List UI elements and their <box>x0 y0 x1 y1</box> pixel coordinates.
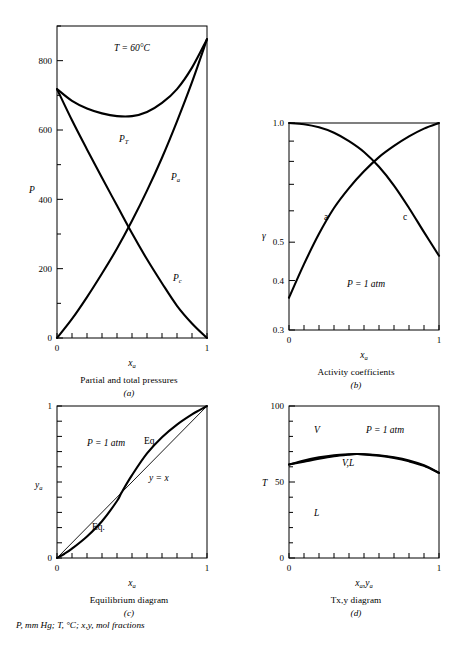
y-tick-label: 0 <box>280 553 285 563</box>
curve-label-eq-lower: Eq. <box>92 522 105 532</box>
y-tick-label: 200 <box>39 264 53 274</box>
y-tick-label: 0 <box>48 553 53 563</box>
panel-d-annotation: P = 1 atm <box>365 425 404 435</box>
panel-a-frame <box>57 26 207 338</box>
curve-activity-coefficient-c <box>289 123 439 256</box>
panel-b-y-ticks: 0.30.40.51.0 <box>273 118 295 335</box>
panel-b-curves <box>289 123 439 298</box>
panel-c-x-ticks: 01 <box>55 553 210 573</box>
y-tick-label: 600 <box>39 125 53 135</box>
region-label-vapor-liquid: V,L <box>342 458 354 468</box>
panel-b-labels: P = 1 atm a c γ xa <box>262 212 407 361</box>
panel-d-frame <box>289 406 439 558</box>
panel-a: 0200400600800 01 T = 60°C PT Pa Pc P xa … <box>16 18 242 399</box>
region-label-vapor: V <box>314 425 321 435</box>
figure-footnote: P, mm Hg; T, °C; x,y, mol fractions <box>16 620 145 630</box>
panel-c-axes: 10 01 <box>48 401 210 573</box>
y-tick-label: 0 <box>48 333 53 343</box>
panel-b-annotation: P = 1 atm <box>346 279 385 289</box>
y-tick-label: 800 <box>39 56 53 66</box>
curve-label-gamma-c: c <box>403 212 407 222</box>
panel-d-labels: P = 1 atm V V,L L T xa,ya <box>262 425 404 589</box>
panel-b-caption-text: Activity coefficients <box>317 367 394 377</box>
panel-d-x-ticks: 01 <box>287 553 442 573</box>
panel-d: 050100 01 P = 1 atm V V,L L T xa,ya Tx,y… <box>248 398 464 619</box>
panel-c-caption: Equilibrium diagram (c) <box>16 595 242 619</box>
panel-b-axes: 0.30.40.51.0 01 <box>273 118 442 345</box>
curve-partial-pressure-c <box>57 89 207 338</box>
panel-c-plot: 10 01 P = 1 atm Eq. Eq. y = x ya xa <box>16 398 242 593</box>
panel-a-annotation: T = 60°C <box>114 43 151 53</box>
curve-bubble-point <box>289 454 439 473</box>
panel-a-x-axis-title: xa <box>127 358 136 369</box>
panel-a-caption: Partial and total pressures (a) <box>16 375 242 399</box>
panel-c-x-axis-title: xa <box>127 578 136 589</box>
curve-label-pc: Pc <box>172 273 182 284</box>
panel-c-caption-text: Equilibrium diagram <box>90 595 169 605</box>
panel-c-curves <box>57 406 207 558</box>
panel-c-sublabel: (c) <box>16 608 242 620</box>
panel-b-caption: Activity coefficients (b) <box>248 367 464 391</box>
y-tick-label: 50 <box>275 477 285 487</box>
curve-activity-coefficient-a <box>289 123 439 298</box>
curve-y-equals-x <box>57 406 207 558</box>
panel-c-annotation: P = 1 atm <box>86 438 125 448</box>
panel-b-frame <box>289 123 439 330</box>
panel-d-y-axis-title: T <box>262 478 268 488</box>
curve-label-eq-upper: Eq. <box>144 436 157 446</box>
y-tick-label: 0.5 <box>273 237 285 247</box>
panel-b-x-ticks: 01 <box>287 325 442 345</box>
panel-a-y-axis-title: P <box>28 185 35 195</box>
panel-d-y-ticks: 050100 <box>271 401 296 563</box>
figure-container: 0200400600800 01 T = 60°C PT Pa Pc P xa … <box>0 0 473 652</box>
panel-c-diagonal-label: y = x <box>148 473 169 483</box>
x-tick-label-max: 1 <box>205 343 210 353</box>
panel-d-curves <box>289 454 439 473</box>
panel-c: 10 01 P = 1 atm Eq. Eq. y = x ya xa Equi… <box>16 398 242 619</box>
panel-a-y-ticks: 0200400600800 <box>39 26 64 343</box>
panel-d-caption: Tx,y diagram (d) <box>248 595 464 619</box>
panel-a-axes: 0200400600800 01 <box>39 26 210 353</box>
panel-d-x-axis-title: xa,ya <box>354 578 373 589</box>
y-tick-label: 100 <box>271 401 285 411</box>
x-tick-label-min: 0 <box>287 335 292 345</box>
x-tick-label-max: 1 <box>437 563 442 573</box>
panel-c-y-axis-title: ya <box>34 480 43 491</box>
panel-b-sublabel: (b) <box>248 380 464 392</box>
panel-c-y-ticks: 10 <box>48 401 63 563</box>
curve-label-pt: PT <box>118 134 130 145</box>
panel-d-plot: 050100 01 P = 1 atm V V,L L T xa,ya <box>248 398 464 593</box>
panel-b: 0.30.40.51.0 01 P = 1 atm a c γ xa Activ… <box>248 115 464 391</box>
panel-a-curves <box>57 39 207 338</box>
y-tick-label: 0.4 <box>273 276 285 286</box>
region-label-liquid: L <box>313 508 319 518</box>
x-tick-label-min: 0 <box>287 563 292 573</box>
y-tick-label: 0.3 <box>273 325 285 335</box>
y-tick-label: 1 <box>48 401 53 411</box>
panel-d-axes: 050100 01 <box>271 401 442 573</box>
y-tick-label: 1.0 <box>273 118 285 128</box>
panel-d-caption-text: Tx,y diagram <box>331 595 382 605</box>
x-tick-label-min: 0 <box>55 343 60 353</box>
panel-a-plot: 0200400600800 01 T = 60°C PT Pa Pc P xa <box>16 18 242 373</box>
panel-b-y-axis-title: γ <box>262 231 266 241</box>
x-tick-label-max: 1 <box>437 335 442 345</box>
panel-d-sublabel: (d) <box>248 608 464 620</box>
x-tick-label-min: 0 <box>55 563 60 573</box>
curve-partial-pressure-a <box>57 39 207 338</box>
y-tick-label: 400 <box>39 195 53 205</box>
panel-a-x-ticks: 01 <box>55 333 210 353</box>
panel-a-labels: T = 60°C PT Pa Pc P xa <box>28 43 182 369</box>
panel-a-caption-text: Partial and total pressures <box>80 375 177 385</box>
panel-b-plot: 0.30.40.51.0 01 P = 1 atm a c γ xa <box>248 115 464 365</box>
x-tick-label-max: 1 <box>205 563 210 573</box>
curve-label-pa: Pa <box>170 172 181 183</box>
panel-b-x-axis-title: xa <box>359 350 368 361</box>
